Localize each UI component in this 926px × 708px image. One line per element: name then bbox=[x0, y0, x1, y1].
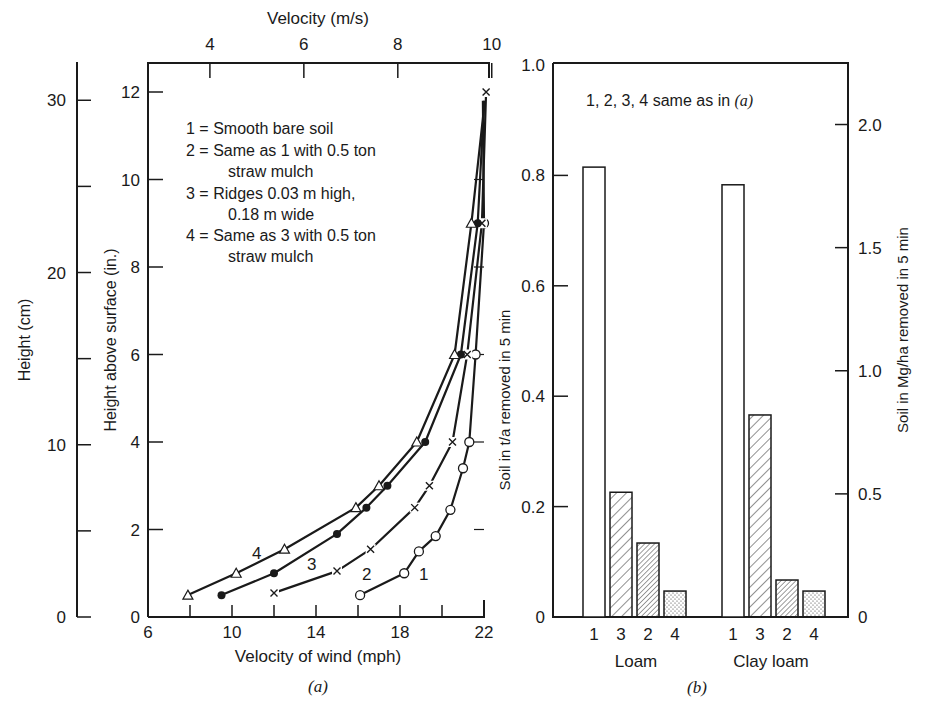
right-tick-label-b: 0 bbox=[858, 608, 867, 627]
left-inner-tick-label: 10 bbox=[121, 171, 140, 190]
legend-line-5: 0.18 m wide bbox=[228, 206, 314, 223]
right-axis-ticks-b: 00.51.01.52.0 bbox=[835, 116, 882, 627]
bar-loam-1 bbox=[583, 167, 605, 617]
left-inner-tick-label: 12 bbox=[121, 83, 140, 102]
data-point-marker bbox=[414, 547, 423, 556]
bottom-tick-label: 14 bbox=[307, 623, 326, 642]
data-point-marker bbox=[421, 438, 429, 446]
panel-a-wind-profile-chart: Velocity (m/s) 46810 610141822 024681012… bbox=[16, 9, 501, 696]
bar-loam-2 bbox=[637, 543, 659, 617]
data-point-marker bbox=[400, 569, 409, 578]
left-inner-tick-label: 0 bbox=[131, 608, 140, 627]
left-inner-tick-label: 8 bbox=[131, 258, 140, 277]
bar-label: 1 bbox=[728, 625, 737, 644]
top-tick-label: 10 bbox=[482, 35, 501, 54]
data-point-marker bbox=[410, 503, 420, 513]
data-point-marker bbox=[481, 87, 491, 97]
bar-label: 3 bbox=[616, 625, 625, 644]
left-outer-tick-label: 20 bbox=[47, 264, 66, 283]
bottom-axis-ticks: 610141822 bbox=[143, 605, 493, 642]
group-label-loam: Loam bbox=[615, 652, 658, 671]
curve-label-1: 1 bbox=[419, 565, 428, 584]
bottom-axis-title: Velocity of wind (mph) bbox=[235, 647, 401, 666]
right-tick-label-b: 1.0 bbox=[858, 362, 882, 381]
left-inner-tick-label: 6 bbox=[131, 346, 140, 365]
curve-label-3: 3 bbox=[307, 555, 316, 574]
top-axis-title: Velocity (m/s) bbox=[267, 9, 369, 28]
figure: Velocity (m/s) 46810 610141822 024681012… bbox=[0, 0, 926, 708]
left-axis-title-b: Soil in t/a removed in 5 min bbox=[496, 310, 513, 491]
data-point-marker bbox=[332, 566, 342, 576]
bottom-tick-label: 10 bbox=[223, 623, 242, 642]
legend-line-6: 4 = Same as 3 with 0.5 ton bbox=[186, 227, 376, 244]
curve-label-2: 2 bbox=[362, 565, 371, 584]
top-tick-label: 6 bbox=[299, 35, 308, 54]
legend-line-3: straw mulch bbox=[228, 163, 313, 180]
data-point-marker bbox=[459, 464, 468, 473]
data-point-marker bbox=[465, 438, 474, 447]
right-tick-label-b: 0.5 bbox=[858, 485, 882, 504]
bar-clay-loam-3 bbox=[749, 415, 771, 617]
bar-label: 4 bbox=[809, 625, 818, 644]
bar-label: 4 bbox=[670, 625, 679, 644]
bar-label: 2 bbox=[643, 625, 652, 644]
group-label-clay-loam: Clay loam bbox=[733, 652, 809, 671]
data-point-marker bbox=[362, 504, 370, 512]
data-point-marker bbox=[383, 482, 391, 490]
left-tick-label-b: 0.8 bbox=[521, 166, 545, 185]
right-tick-label-b: 2.0 bbox=[858, 116, 882, 135]
data-point-marker bbox=[366, 544, 376, 554]
bottom-tick-label: 22 bbox=[475, 623, 494, 642]
left-tick-label-b: 0.6 bbox=[521, 277, 545, 296]
data-point-marker bbox=[269, 588, 279, 598]
left-outer-axis-title: Height (cm) bbox=[16, 299, 33, 382]
left-inner-tick-label: 2 bbox=[131, 521, 140, 540]
bar-label: 2 bbox=[782, 625, 791, 644]
left-outer-tick-label: 30 bbox=[47, 91, 66, 110]
data-point-marker bbox=[412, 437, 422, 446]
curve-label-4: 4 bbox=[252, 544, 261, 563]
left-outer-tick-label: 10 bbox=[47, 436, 66, 455]
bar-clay-loam-1 bbox=[722, 185, 744, 617]
data-point-marker bbox=[280, 544, 290, 553]
legend-line-7: straw mulch bbox=[228, 248, 313, 265]
right-tick-label-b: 1.5 bbox=[858, 239, 882, 258]
caption-b: (b) bbox=[687, 678, 707, 697]
top-tick-label: 4 bbox=[205, 35, 214, 54]
top-tick-label: 8 bbox=[393, 35, 402, 54]
bar-loam-4 bbox=[664, 591, 686, 617]
left-axis-ticks-b: 00.20.40.60.81.0 bbox=[521, 56, 568, 627]
data-point-marker bbox=[431, 532, 440, 541]
data-point-marker bbox=[270, 569, 278, 577]
data-point-marker bbox=[333, 530, 341, 538]
bottom-tick-label: 6 bbox=[143, 623, 152, 642]
curve-1 bbox=[360, 101, 484, 595]
top-axis-ticks: 46810 bbox=[205, 35, 501, 78]
left-outer-axis-ticks: 0102030 bbox=[47, 91, 91, 627]
bar-clay-loam-2 bbox=[776, 580, 798, 617]
bar-clay-loam-4 bbox=[803, 591, 825, 617]
left-inner-axis-title: Height above surface (in.) bbox=[102, 248, 119, 431]
data-point-marker bbox=[471, 350, 480, 359]
legend-line-1: 1 = Smooth bare soil bbox=[186, 120, 333, 137]
left-tick-label-b: 0.2 bbox=[521, 498, 545, 517]
data-point-marker bbox=[446, 505, 455, 514]
left-tick-label-b: 1.0 bbox=[521, 56, 545, 75]
data-point-marker bbox=[356, 591, 365, 600]
annotation-b: 1, 2, 3, 4 same as in (a) bbox=[586, 92, 753, 110]
bottom-tick-label: 18 bbox=[391, 623, 410, 642]
right-axis-title-b: Soil in Mg/ha removed in 5 min bbox=[894, 227, 911, 433]
left-tick-label-b: 0.4 bbox=[521, 387, 545, 406]
data-point-marker bbox=[448, 437, 458, 447]
bar-loam-3 bbox=[610, 492, 632, 617]
bar-label: 3 bbox=[755, 625, 764, 644]
left-outer-tick-label: 0 bbox=[57, 608, 66, 627]
data-point-marker bbox=[218, 591, 226, 599]
left-tick-label-b: 0 bbox=[536, 608, 545, 627]
left-inner-tick-label: 4 bbox=[131, 433, 140, 452]
panel-b-soil-loss-bar-chart: 00.20.40.60.81.0 00.51.01.52.0 1, 2, 3, … bbox=[496, 56, 911, 697]
legend-a: 1 = Smooth bare soil 2 = Same as 1 with … bbox=[186, 120, 376, 265]
data-point-marker bbox=[424, 481, 434, 491]
bar-label: 1 bbox=[589, 625, 598, 644]
legend-line-2: 2 = Same as 1 with 0.5 ton bbox=[186, 142, 376, 159]
